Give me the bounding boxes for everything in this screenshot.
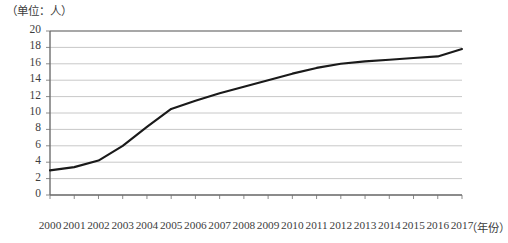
y-tick-label: 2 (17, 171, 41, 183)
y-tick-label: 16 (17, 56, 41, 68)
y-tick-label: 18 (17, 39, 41, 51)
y-tick-label: 4 (17, 154, 41, 166)
y-tick-label: 0 (17, 187, 41, 199)
x-axis-title: （年份） (466, 219, 508, 235)
y-tick-label: 10 (17, 105, 41, 117)
gridlines (50, 31, 462, 195)
y-tick-label: 12 (17, 89, 41, 101)
x-axis-ticks (46, 31, 462, 199)
y-tick-label: 8 (17, 121, 41, 133)
y-tick-label: 14 (17, 72, 41, 84)
y-tick-label: 20 (17, 23, 41, 35)
data-series-line (50, 49, 462, 170)
y-tick-label: 6 (17, 138, 41, 150)
